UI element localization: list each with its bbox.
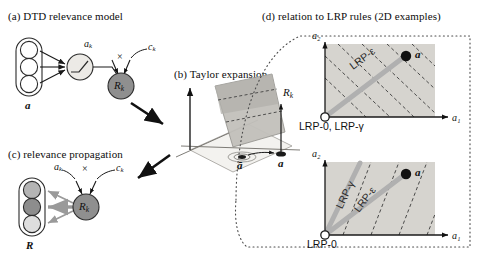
panel-d-graphics [0, 0, 478, 259]
figure-root: (a) DTD relevance model [0, 0, 478, 259]
chart-bottom-point-label: a [415, 166, 421, 178]
chart-top-origin-label: LRP-0, LRP-γ [299, 120, 364, 132]
chart-top-xlabel: a₁ [452, 112, 460, 123]
chart-bottom-ylabel: a₂ [312, 148, 320, 159]
chart-top-right [321, 42, 448, 121]
chart-top-point-label: a [415, 48, 421, 60]
chart-bottom-point-a [401, 169, 411, 179]
chart-top-point-a [401, 51, 411, 61]
chart-top-ylabel: a₂ [312, 30, 320, 41]
chart-bottom-xlabel: a₁ [452, 230, 460, 241]
chart-bottom-origin-label: LRP-0 [307, 238, 337, 250]
